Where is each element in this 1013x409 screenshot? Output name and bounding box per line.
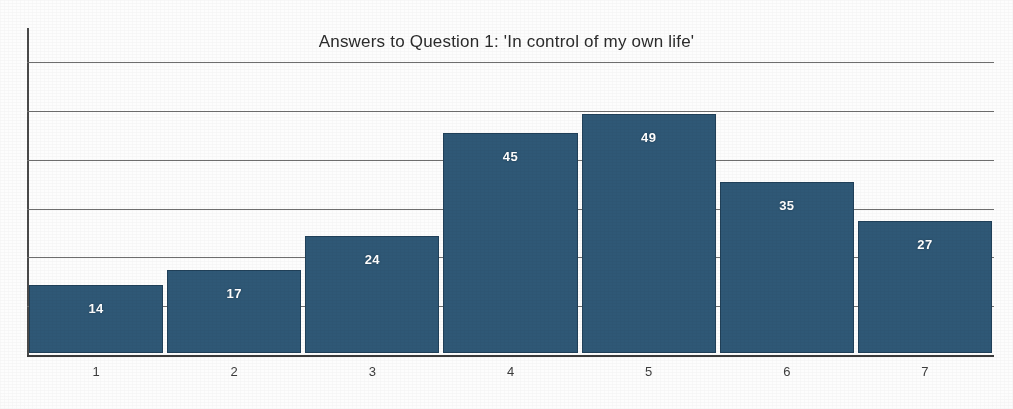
scanned-page-background: Answers to Question 1: 'In control of my… [0,0,1013,409]
bar-value-label-2: 17 [167,286,301,301]
bar-value-label-6: 35 [720,198,854,213]
bar-6[interactable]: 35 [720,182,854,353]
bar-chart: Answers to Question 1: 'In control of my… [0,0,1013,409]
bar-5[interactable]: 49 [582,114,716,353]
x-tick-3: 3 [303,364,441,379]
bar-4[interactable]: 45 [443,133,577,353]
x-tick-7: 7 [856,364,994,379]
x-tick-1: 1 [27,364,165,379]
gridline-60 [27,62,994,63]
x-axis-line [27,355,994,357]
bar-value-label-3: 24 [305,252,439,267]
bar-value-label-4: 45 [443,149,577,164]
bar-3[interactable]: 24 [305,236,439,353]
plot-area: 14172445493527 [27,28,994,355]
bar-7[interactable]: 27 [858,221,992,353]
gridline-50 [27,111,994,112]
x-tick-6: 6 [718,364,856,379]
bar-2[interactable]: 17 [167,270,301,353]
x-tick-2: 2 [165,364,303,379]
x-tick-5: 5 [580,364,718,379]
bar-1[interactable]: 14 [29,285,163,353]
bar-value-label-7: 27 [858,237,992,252]
bar-value-label-1: 14 [29,301,163,316]
x-tick-4: 4 [441,364,579,379]
bar-value-label-5: 49 [582,130,716,145]
